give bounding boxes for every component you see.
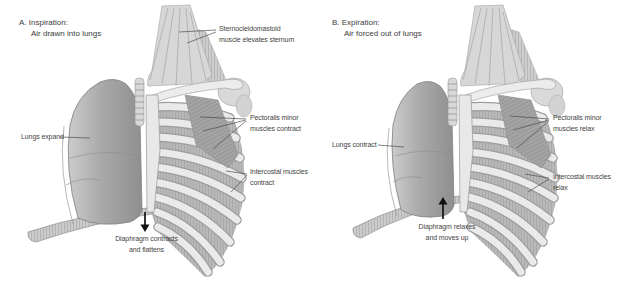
panel-b-subtitle: Air forced out of lungs xyxy=(344,28,422,39)
label-intercostal-a: Intercostal muscles contract xyxy=(250,166,320,188)
label-pectoralis-b: Pectoralis minor muscles relax xyxy=(553,112,623,134)
lung-a xyxy=(68,79,142,224)
label-lungs-a: Lungs expand xyxy=(21,131,64,142)
label-sternocleidomastoid-a: Sternocleidomastoid muscle elevates ster… xyxy=(219,23,315,45)
label-diaphragm-b: Diaphragm relaxes and moves up xyxy=(397,221,497,243)
panel-a-title: A. Inspiration: xyxy=(19,17,68,28)
panel-a-subtitle: Air drawn into lungs xyxy=(31,28,101,39)
thorax-artwork xyxy=(0,0,626,302)
panel-b-title: B. Expiration: xyxy=(332,17,380,28)
label-diaphragm-a: Diaphragm contracts and flattens xyxy=(99,233,194,255)
respiration-diagram: A. Inspiration: Air drawn into lungs Ste… xyxy=(0,0,626,302)
lung-b xyxy=(392,81,454,217)
label-intercostal-b: Intercostal muscles relax xyxy=(553,171,623,193)
label-pectoralis-a: Pectoralis minor muscles contract xyxy=(250,112,320,134)
label-lungs-b: Lungs contract xyxy=(332,139,377,150)
